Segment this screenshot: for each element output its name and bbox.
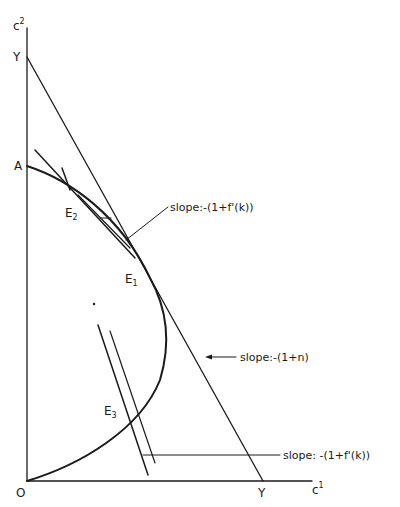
- tangent-e3-parallel: [110, 331, 155, 463]
- e3-label: E3: [104, 404, 117, 420]
- y-axis-label: c2: [13, 17, 25, 33]
- origin-label: O: [16, 486, 25, 500]
- arrow-left-icon: [205, 355, 212, 360]
- tangent-e2-short: [62, 168, 70, 190]
- e1-label: E1: [125, 272, 138, 288]
- point-a-label: A: [14, 159, 23, 173]
- upper-slope-pointer: [126, 207, 168, 240]
- e2-label: E2: [65, 206, 78, 222]
- tangent-e2-parallel: [78, 195, 130, 248]
- tangent-e3-line: [98, 325, 148, 475]
- x-axis-label: c1: [312, 481, 324, 497]
- consumption-diagram: c2 c1 O Y Y A E1 E2 E3 slope:-(1+f'(k)) …: [0, 0, 400, 507]
- stray-dot: [93, 303, 95, 305]
- x-intercept-label: Y: [257, 486, 266, 500]
- upper-slope-label: slope:-(1+f'(k)): [170, 201, 254, 214]
- tangent-e2-line: [35, 150, 135, 258]
- budget-slope-label: slope:-(1+n): [240, 351, 309, 364]
- lower-slope-label: slope: -(1+f'(k)): [283, 449, 370, 462]
- y-intercept-label: Y: [12, 50, 21, 64]
